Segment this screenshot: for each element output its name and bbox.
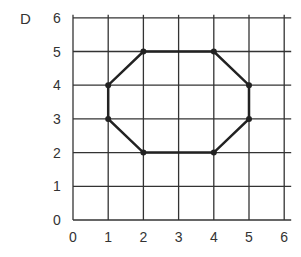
- x-tick-label: 1: [104, 229, 112, 245]
- vertex-point: [246, 116, 252, 122]
- y-tick-label: 4: [53, 77, 61, 93]
- y-tick-label: 2: [53, 145, 61, 161]
- x-tick-label: 2: [140, 229, 148, 245]
- vertex-point: [211, 49, 217, 55]
- vertex-point: [246, 82, 252, 88]
- vertex-point: [140, 150, 146, 156]
- y-tick-label: 6: [53, 10, 61, 26]
- y-tick-label: 1: [53, 178, 61, 194]
- vertex-point: [211, 150, 217, 156]
- vertex-point: [105, 116, 111, 122]
- x-tick-label: 6: [280, 229, 288, 245]
- vertex-point: [105, 82, 111, 88]
- x-tick-label: 4: [210, 229, 218, 245]
- y-tick-label: 5: [53, 44, 61, 60]
- x-tick-label: 3: [175, 229, 183, 245]
- vertex-point: [140, 49, 146, 55]
- coordinate-grid: 01234560123456: [0, 0, 301, 257]
- x-tick-label: 5: [245, 229, 253, 245]
- y-tick-label: 3: [53, 111, 61, 127]
- y-tick-label: 0: [53, 212, 61, 228]
- x-tick-label: 0: [69, 229, 77, 245]
